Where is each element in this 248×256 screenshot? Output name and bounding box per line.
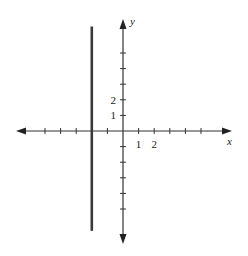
y-axis-label: y [129, 15, 135, 27]
x-axis-right-arrow-icon [222, 128, 232, 135]
y-tick-label: 1 [111, 109, 117, 121]
y-axis-down-arrow-icon [120, 234, 127, 244]
x-tick-label: 2 [151, 138, 157, 150]
x-axis-label: x [226, 135, 232, 147]
labels: x y 1212 [111, 15, 233, 150]
x-axis-left-arrow-icon [16, 128, 26, 135]
y-axis-up-arrow-icon [120, 19, 127, 29]
x-tick-label: 1 [136, 138, 142, 150]
y-tick-label: 2 [111, 94, 117, 106]
coordinate-plane: x y 1212 [0, 0, 248, 256]
